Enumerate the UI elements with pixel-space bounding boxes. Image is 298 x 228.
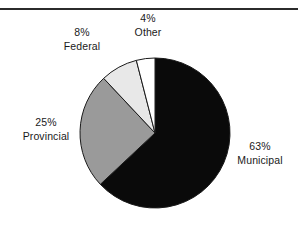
pie-label-provincial-name: Provincial: [6, 130, 86, 144]
pie-label-federal: 8% Federal: [44, 26, 120, 53]
pie-label-other-name: Other: [112, 26, 184, 40]
pie-label-municipal: 63% Municipal: [222, 140, 298, 167]
pie-label-provincial-percent: 25%: [6, 116, 86, 130]
pie-slices-group: [80, 58, 230, 208]
pie-label-other: 4% Other: [112, 12, 184, 39]
pie-label-municipal-name: Municipal: [222, 154, 298, 168]
pie-label-provincial: 25% Provincial: [6, 116, 86, 143]
pie-label-federal-name: Federal: [44, 40, 120, 54]
pie-chart-figure: 4% Other 8% Federal 25% Provincial 63% M…: [0, 0, 298, 228]
chart-area: 4% Other 8% Federal 25% Provincial 63% M…: [0, 0, 298, 228]
pie-label-federal-percent: 8%: [44, 26, 120, 40]
pie-label-municipal-percent: 63%: [222, 140, 298, 154]
pie-label-other-percent: 4%: [112, 12, 184, 26]
